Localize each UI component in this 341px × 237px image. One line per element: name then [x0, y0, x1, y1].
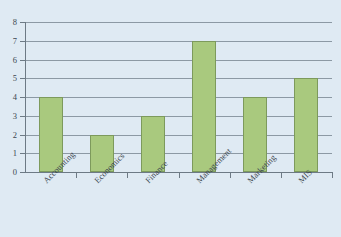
y-tick-label: 6 [3, 56, 17, 65]
y-tick-label: 3 [3, 112, 17, 121]
y-tick-label: 5 [3, 74, 17, 83]
x-tick-mark [332, 173, 333, 178]
x-tick-mark [230, 173, 231, 178]
y-tick-label: 8 [3, 18, 17, 27]
bar [192, 41, 216, 172]
bar-chart: 012345678 AccountingEconomicsFinanceMana… [0, 0, 341, 237]
y-tick-label: 4 [3, 93, 17, 102]
y-tick-label: 1 [3, 149, 17, 158]
y-tick-label: 7 [3, 37, 17, 46]
x-tick-mark [281, 173, 282, 178]
x-tick-mark [76, 173, 77, 178]
x-tick-mark [127, 173, 128, 178]
y-tick-label: 2 [3, 131, 17, 140]
y-tick-label: 0 [3, 168, 17, 177]
y-axis-line [25, 22, 26, 173]
bar [294, 78, 318, 172]
x-tick-mark [179, 173, 180, 178]
